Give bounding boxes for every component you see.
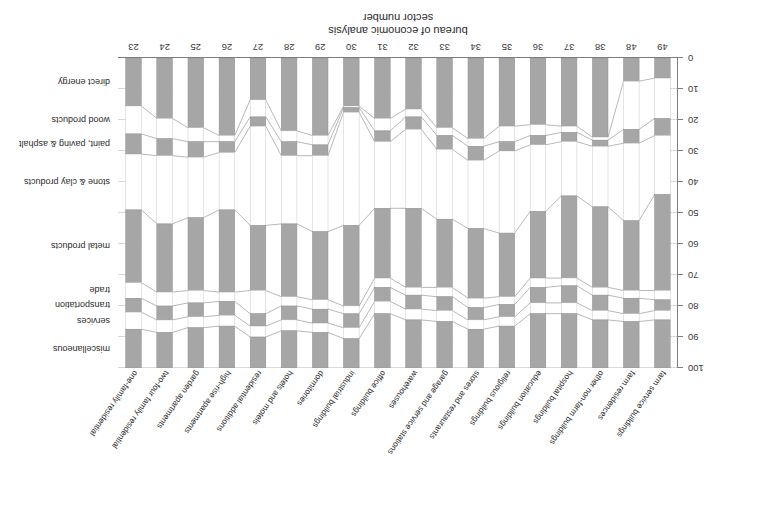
x-axis-title-line2: sector number (118, 12, 678, 25)
y-tick-mark (678, 150, 683, 151)
y-tick-mark (678, 336, 683, 337)
series-label: wood products (51, 115, 110, 125)
y-tick-label: 50 (688, 208, 782, 219)
y-tick-mark (678, 212, 683, 213)
y-tick-label: 60 (688, 239, 782, 250)
column-caption: garage and service stations (386, 369, 451, 456)
plot-area (118, 58, 678, 368)
y-tick-mark (678, 88, 683, 89)
series-label: direct energy (58, 77, 110, 87)
y-tick-mark (678, 119, 683, 120)
y-tick-label: 20 (688, 115, 782, 126)
y-tick-label: 80 (688, 301, 782, 312)
column-caption: dormitories (295, 369, 326, 407)
x-tick-label: 23 (114, 42, 154, 53)
x-axis-title-line1: bureau of economic analysis (118, 25, 678, 38)
column-caption: two-four family residential (110, 369, 171, 450)
column-caption: warehouses (387, 369, 420, 410)
y-tick-label: 30 (688, 146, 782, 157)
stacked-area-bands (118, 58, 678, 368)
series-label: services (77, 316, 110, 326)
series-label: metal products (51, 241, 110, 251)
series-label: trade (89, 286, 110, 296)
y-tick-label: 0 (688, 53, 782, 64)
y-tick-mark (678, 367, 683, 368)
y-tick-mark (678, 181, 683, 182)
chart-stage: 0102030405060708090100 percent of total … (0, 0, 782, 505)
series-label: transportation (55, 300, 110, 310)
column-caption: other non-farm buildings (548, 369, 606, 446)
y-tick-label: 90 (688, 332, 782, 343)
series-label: miscellaneous (53, 344, 110, 354)
y-tick-mark (678, 305, 683, 306)
y-tick-mark (678, 243, 683, 244)
y-tick-label: 70 (688, 270, 782, 281)
series-label: paint, paving & asphalt (19, 139, 110, 149)
series-label: stone & clay products (24, 177, 110, 187)
column-caption: office buildings (350, 369, 388, 418)
y-tick-label: 100 (688, 363, 782, 374)
x-axis-line (118, 57, 678, 58)
figure-root: 0102030405060708090100 percent of total … (0, 0, 782, 505)
y-tick-mark (678, 274, 683, 275)
y-tick-label: 40 (688, 177, 782, 188)
y-tick-label: 10 (688, 84, 782, 95)
y-tick-mark (678, 57, 683, 58)
y-axis-line (677, 58, 678, 368)
x-axis-title: bureau of economic analysis sector numbe… (118, 12, 678, 37)
